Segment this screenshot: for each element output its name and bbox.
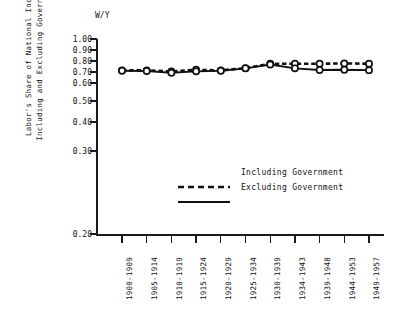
x-tick (195, 236, 196, 243)
x-axis-tick-labels: 1900-19091905-19141910-19191915-19241920… (96, 39, 384, 159)
y-axis-tick-labels: 1.000.900.800.700.600.500.400.300.20 (56, 39, 92, 236)
legend-label-excluding: Excluding Government (241, 183, 343, 192)
legend-item-including: Including Government (178, 168, 353, 183)
legend-swatch-dashed (178, 174, 230, 177)
legend-label-including: Including Government (241, 168, 343, 177)
x-tick (220, 236, 221, 243)
x-tick-label: 1925-1934 (249, 257, 258, 300)
x-tick (344, 236, 345, 243)
x-tick (146, 236, 147, 243)
y-axis-title: Labor's Share of National Income Includi… (21, 0, 47, 155)
x-tick-label: 1900-1909 (125, 257, 134, 300)
x-tick (319, 236, 320, 243)
x-tick-label: 1910-1919 (175, 257, 184, 300)
x-tick-label: 1934-1943 (298, 257, 307, 300)
x-tick-label: 1905-1914 (150, 257, 159, 300)
unit-label: W/Y (95, 11, 109, 20)
legend-swatch-solid (178, 189, 230, 192)
x-tick-label: 1939-1948 (323, 257, 332, 300)
x-tick (270, 236, 271, 243)
x-tick-label: 1915-1924 (199, 257, 208, 300)
x-tick (121, 236, 122, 243)
x-tick-label: 1944-1953 (348, 257, 357, 300)
x-tick (245, 236, 246, 243)
x-tick-label: 1930-1939 (273, 257, 282, 300)
x-tick-label: 1949-1957 (372, 257, 381, 300)
x-tick (294, 236, 295, 243)
x-tick (171, 236, 172, 243)
legend: Including Government Excluding Governmen… (178, 168, 353, 198)
chart-root: W/Y Labor's Share of National Income Inc… (0, 0, 407, 325)
x-tick (368, 236, 369, 243)
legend-item-excluding: Excluding Government (178, 183, 353, 198)
y-axis-title-line1: Labor's Share of National Income (23, 0, 34, 136)
y-axis-title-line2: Including and Excluding Government (34, 0, 45, 141)
x-tick-label: 1920-1929 (224, 257, 233, 300)
